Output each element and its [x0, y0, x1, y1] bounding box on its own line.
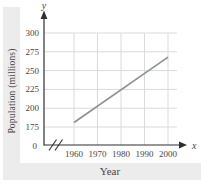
- population-line-chart: 17520022525027530019601970198019902000 0…: [0, 0, 201, 184]
- x-axis-letter: x: [191, 140, 197, 151]
- x-tick-label: 2000: [159, 149, 178, 159]
- origin-tick-label: 0: [33, 141, 38, 151]
- gridlines: [44, 33, 177, 145]
- y-tick-label: 225: [26, 84, 40, 94]
- x-axis-arrow-icon: [179, 142, 187, 149]
- tick-labels: 17520022525027530019601970198019902000: [26, 28, 178, 159]
- y-tick-label: 175: [26, 122, 40, 132]
- y-axis-letter: y: [41, 0, 47, 11]
- x-tick-label: 1990: [136, 149, 155, 159]
- textbook-figure: Population (millions) Year 1752002252502…: [0, 0, 201, 184]
- y-tick-label: 250: [26, 66, 40, 76]
- y-tick-label: 300: [26, 28, 40, 38]
- y-axis-arrow-icon: [41, 11, 48, 20]
- y-tick-label: 275: [26, 47, 40, 57]
- x-tick-label: 1960: [65, 149, 84, 159]
- x-tick-label: 1980: [112, 149, 131, 159]
- x-tick-label: 1970: [89, 149, 108, 159]
- axes: [41, 11, 187, 149]
- y-tick-label: 200: [26, 103, 40, 113]
